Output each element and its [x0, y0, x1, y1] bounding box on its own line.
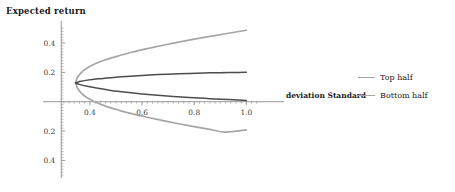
legend-item-top-half[interactable]: Top half: [358, 68, 454, 86]
curve-group: [76, 30, 247, 132]
tick-label: 0.4: [84, 108, 96, 117]
x-axis-ticks: 0.40.60.81.0: [64, 102, 257, 117]
tick-label: 0.8: [188, 108, 200, 117]
legend-swatch-bottom-half: [358, 95, 375, 96]
tick-label: 0.4: [43, 156, 55, 165]
tick-label: 1.0: [240, 108, 252, 117]
chart-legend: Top half Bottom half: [358, 68, 454, 104]
legend-item-bottom-half[interactable]: Bottom half: [358, 86, 454, 104]
legend-swatch-top-half: [358, 77, 375, 78]
tick-label: 0.2: [43, 127, 55, 136]
legend-label-top-half: Top half: [380, 73, 413, 82]
tick-label: 0.2: [43, 68, 55, 77]
curve-bottom-half-lower: [76, 83, 247, 100]
curve-top-half-lower: [76, 83, 247, 132]
tick-label: 0.4: [43, 39, 55, 48]
legend-label-bottom-half: Bottom half: [380, 91, 428, 100]
chart-container: Expected return deviation Standard 0.40.…: [0, 0, 455, 192]
curve-bottom-half-upper: [76, 72, 247, 83]
